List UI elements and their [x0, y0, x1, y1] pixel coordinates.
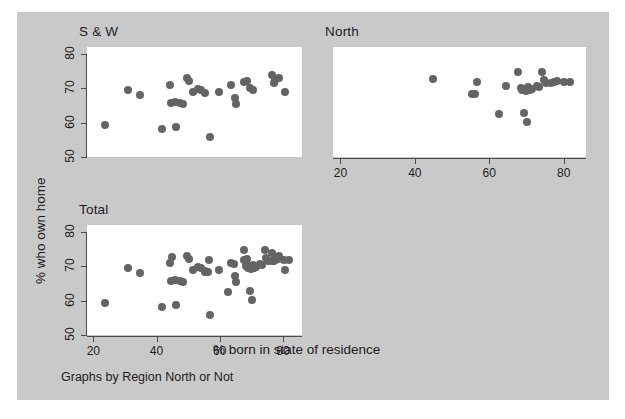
- panel-total: Total 5060708020406080: [17, 190, 309, 350]
- data-point: [101, 299, 109, 307]
- x-tick-label: 40: [403, 166, 427, 180]
- panel-title-north: North: [325, 24, 359, 39]
- y-tick-label: 80: [63, 44, 77, 62]
- data-point: [172, 301, 180, 309]
- data-point: [249, 86, 257, 94]
- data-point: [206, 311, 214, 319]
- data-point: [227, 81, 235, 89]
- data-point: [566, 78, 574, 86]
- figure-canvas: S & W 50607080 North 20406080 Total 5060…: [17, 12, 609, 400]
- data-point: [185, 255, 193, 263]
- y-tick-label: 70: [63, 78, 77, 96]
- data-point: [473, 78, 481, 86]
- y-tick-label: 80: [63, 222, 77, 240]
- y-tick-label: 50: [63, 325, 77, 343]
- x-tick: [93, 336, 94, 342]
- data-point: [232, 100, 240, 108]
- x-tick-label: 60: [477, 166, 501, 180]
- data-point: [495, 110, 503, 118]
- data-point: [215, 88, 223, 96]
- plot-area-north: [333, 47, 586, 157]
- panel-title-total: Total: [79, 202, 109, 217]
- y-tick-label: 50: [63, 147, 77, 165]
- y-axis-line: [86, 232, 87, 335]
- data-point: [185, 77, 193, 85]
- figure-caption: Graphs by Region North or Not: [61, 370, 233, 384]
- data-point: [514, 68, 522, 76]
- data-point: [246, 287, 254, 295]
- data-point: [520, 109, 528, 117]
- y-tick-label: 60: [63, 113, 77, 131]
- data-point: [179, 278, 187, 286]
- data-point: [281, 88, 289, 96]
- data-point: [136, 91, 144, 99]
- data-point: [429, 75, 437, 83]
- x-tick: [415, 158, 416, 164]
- data-point: [230, 260, 238, 268]
- data-point: [204, 268, 212, 276]
- x-tick-label: 20: [328, 166, 352, 180]
- data-point: [215, 266, 223, 274]
- y-tick: [81, 266, 87, 267]
- plot-area-s-and-w: [87, 47, 302, 157]
- data-point: [240, 246, 248, 254]
- data-point: [205, 256, 213, 264]
- x-axis-line: [333, 158, 586, 159]
- y-tick: [81, 157, 87, 158]
- data-point: [275, 74, 283, 82]
- data-point: [471, 90, 479, 98]
- x-tick: [157, 336, 158, 342]
- data-point: [285, 256, 293, 264]
- data-point: [523, 118, 531, 126]
- y-tick-label: 60: [63, 291, 77, 309]
- data-point: [136, 269, 144, 277]
- y-tick: [81, 88, 87, 89]
- data-point: [179, 100, 187, 108]
- y-tick: [81, 232, 87, 233]
- data-point: [281, 266, 289, 274]
- data-point: [124, 264, 132, 272]
- x-tick-label: 80: [552, 166, 576, 180]
- data-point: [206, 133, 214, 141]
- x-tick: [564, 158, 565, 164]
- x-tick-label: 40: [145, 344, 169, 358]
- data-point: [166, 81, 174, 89]
- y-tick-label: 70: [63, 256, 77, 274]
- data-point: [101, 121, 109, 129]
- y-axis-line: [86, 54, 87, 157]
- y-tick: [81, 301, 87, 302]
- y-axis-title: % who own home: [33, 177, 48, 284]
- data-point: [158, 125, 166, 133]
- x-tick-label: 20: [81, 344, 105, 358]
- y-tick: [81, 54, 87, 55]
- plot-area-total: [87, 225, 302, 335]
- y-tick: [81, 123, 87, 124]
- data-point: [502, 82, 510, 90]
- panel-s-and-w: S & W 50607080: [17, 12, 309, 172]
- x-tick: [340, 158, 341, 164]
- data-point: [168, 253, 176, 261]
- x-axis-title: % born in state of residence: [213, 342, 380, 357]
- panel-title-s-and-w: S & W: [79, 24, 118, 39]
- data-point: [224, 288, 232, 296]
- data-point: [158, 303, 166, 311]
- data-point: [124, 86, 132, 94]
- panel-north: North 20406080: [317, 12, 609, 172]
- x-axis-line: [87, 336, 302, 337]
- data-point: [172, 123, 180, 131]
- data-point: [248, 296, 256, 304]
- data-point: [201, 89, 209, 97]
- data-point: [232, 278, 240, 286]
- x-tick: [489, 158, 490, 164]
